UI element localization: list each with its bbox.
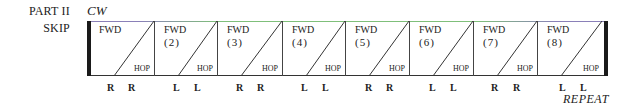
fwd-label: FWD: [547, 24, 569, 36]
fwd-label: FWD: [164, 24, 186, 36]
fwd-label: FWD: [483, 24, 505, 36]
hop-label: HOP: [134, 64, 150, 73]
foot-label: L: [194, 82, 201, 93]
repeat-label: REPEAT: [563, 92, 609, 105]
foot-label: R: [386, 82, 393, 93]
end-bar: [604, 21, 608, 76]
direction-label: CW: [87, 3, 107, 19]
foot-label: L: [429, 82, 436, 93]
step-number: (3): [227, 36, 243, 48]
step-number: (8): [547, 36, 563, 48]
fwd-label: FWD: [227, 24, 249, 36]
step-cell-7: FWD (7) HOP: [474, 21, 538, 76]
step-number: (5): [355, 36, 371, 48]
step-number: (7): [483, 36, 499, 48]
foot-label: R: [513, 82, 520, 93]
fwd-label: FWD: [99, 24, 121, 36]
foot-label: L: [173, 82, 180, 93]
hop-label: HOP: [453, 64, 469, 73]
step-number: (2): [164, 36, 180, 48]
step-cell-2: FWD (2) HOP: [155, 21, 218, 76]
foot-label: R: [107, 82, 114, 93]
foot-label: R: [491, 82, 498, 93]
step-cell-8: FWD (8) HOP: [538, 21, 608, 76]
foot-label: L: [450, 82, 457, 93]
fwd-label: FWD: [292, 24, 314, 36]
start-bar: [87, 21, 91, 76]
step-cell-5: FWD (5) HOP: [346, 21, 410, 76]
step-cell-4: FWD (4) HOP: [283, 21, 346, 76]
foot-label: R: [365, 82, 372, 93]
fwd-label: FWD: [419, 24, 441, 36]
step-cell-6: FWD (6) HOP: [410, 21, 474, 76]
foot-label: R: [236, 82, 243, 93]
foot-label: L: [301, 82, 308, 93]
foot-label: L: [322, 82, 329, 93]
hop-label: HOP: [583, 64, 599, 73]
hop-label: HOP: [517, 64, 533, 73]
hop-label: HOP: [262, 64, 278, 73]
hop-label: HOP: [197, 64, 213, 73]
hop-label: HOP: [389, 64, 405, 73]
foot-label: R: [128, 82, 135, 93]
step-strip: FWD HOP FWD (2) HOP FWD (3) HOP FWD (4) …: [87, 21, 608, 76]
step-cell-1: FWD HOP: [87, 21, 155, 76]
skip-label: SKIP: [43, 21, 70, 36]
step-cell-3: FWD (3) HOP: [218, 21, 283, 76]
hop-label: HOP: [325, 64, 341, 73]
part-label: PART II: [29, 4, 70, 19]
step-number: (4): [292, 36, 308, 48]
step-number: (6): [419, 36, 435, 48]
foot-label: R: [257, 82, 264, 93]
fwd-label: FWD: [355, 24, 377, 36]
